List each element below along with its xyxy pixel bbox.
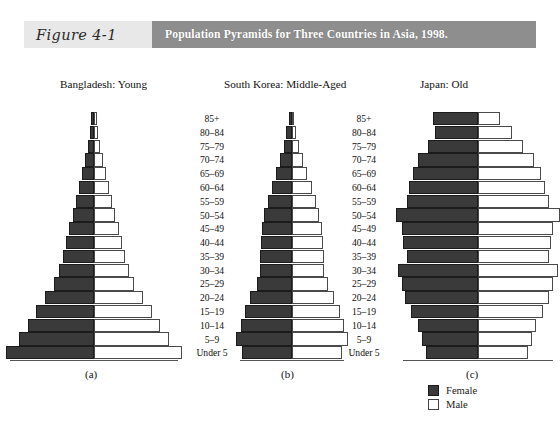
pyramid-row	[396, 250, 560, 263]
female-half	[396, 140, 478, 153]
pyramid-row	[6, 250, 182, 263]
male-half	[94, 236, 182, 249]
male-bar	[292, 208, 319, 221]
pyramid-row	[6, 181, 182, 194]
female-bar	[245, 305, 292, 318]
female-bar	[262, 222, 292, 235]
female-half	[396, 305, 478, 318]
sub-caption-b: (b)	[281, 368, 294, 380]
age-label: 60–64	[183, 183, 241, 193]
female-half	[6, 153, 94, 166]
male-bar	[94, 250, 125, 263]
male-bar	[94, 346, 182, 359]
male-half	[478, 195, 560, 208]
male-half	[478, 264, 560, 277]
pyramid-row	[396, 264, 560, 277]
female-bar	[268, 195, 292, 208]
pyramid-row	[6, 140, 182, 153]
female-bar	[85, 153, 94, 166]
female-bar	[236, 332, 292, 345]
female-bar	[411, 305, 478, 318]
female-half	[236, 181, 292, 194]
male-bar	[292, 112, 294, 125]
female-bar	[250, 291, 292, 304]
female-bar	[79, 181, 94, 194]
female-bar	[45, 291, 94, 304]
female-swatch-icon	[428, 385, 439, 396]
chart-legend: Female Male	[428, 385, 477, 413]
female-half	[396, 181, 478, 194]
pyramid-row	[6, 153, 182, 166]
pyramid-row	[236, 208, 348, 221]
female-half	[236, 208, 292, 221]
female-bar	[402, 222, 478, 235]
male-bar	[292, 140, 299, 153]
male-bar	[292, 305, 340, 318]
female-half	[6, 332, 94, 345]
male-half	[478, 167, 560, 180]
female-half	[6, 264, 94, 277]
female-half	[396, 264, 478, 277]
pyramid-row	[396, 153, 560, 166]
age-label: 45–49	[335, 224, 393, 234]
female-half	[236, 112, 292, 125]
male-bar	[478, 181, 545, 194]
female-bar	[433, 112, 478, 125]
male-half	[478, 305, 560, 318]
pyramid-row	[236, 305, 348, 318]
male-bar	[292, 126, 296, 139]
female-bar	[36, 305, 94, 318]
age-label: 5–9	[183, 335, 241, 345]
male-half	[478, 181, 560, 194]
male-half	[94, 305, 182, 318]
female-bar	[257, 277, 292, 290]
age-label: 5–9	[335, 335, 393, 345]
pyramid-row	[236, 346, 348, 359]
age-label: 30–34	[335, 266, 393, 276]
age-axis-labels-left: 85+80–8475–7970–7465–6960–6455–5950–5445…	[183, 112, 241, 360]
female-bar	[418, 319, 478, 332]
female-half	[236, 250, 292, 263]
female-bar	[435, 126, 478, 139]
female-bar	[409, 181, 478, 194]
pyramid-row	[396, 167, 560, 180]
female-bar	[272, 181, 292, 194]
female-bar	[59, 264, 94, 277]
pyramid-row	[396, 305, 560, 318]
male-bar	[478, 112, 500, 125]
age-label: 80–84	[183, 128, 241, 138]
pyramid-row	[236, 222, 348, 235]
male-bar	[478, 277, 553, 290]
pyramid-baseline	[240, 360, 344, 361]
pyramid-row	[6, 208, 182, 221]
age-label: 70–74	[183, 155, 241, 165]
male-bar	[292, 167, 307, 180]
pyramid-row	[236, 126, 348, 139]
male-bar	[94, 112, 97, 125]
pyramid-row	[6, 277, 182, 290]
figure-header: Figure 4-1 Population Pyramids for Three…	[24, 21, 536, 48]
sub-caption-c: (c)	[466, 368, 478, 380]
panel-caption-bangladesh: Bangladesh: Young	[60, 78, 147, 90]
female-half	[396, 332, 478, 345]
pyramid-row	[236, 140, 348, 153]
legend-label-female: Female	[446, 385, 477, 396]
age-label: 40–44	[183, 238, 241, 248]
female-half	[236, 153, 292, 166]
female-half	[236, 319, 292, 332]
pyramid-row	[236, 153, 348, 166]
male-bar	[94, 277, 134, 290]
male-bar	[94, 153, 103, 166]
age-label: 20–24	[335, 293, 393, 303]
female-bar	[407, 195, 478, 208]
pyramid-chart-bangladesh	[6, 112, 182, 360]
female-bar	[403, 236, 478, 249]
female-bar	[396, 208, 478, 221]
female-half	[6, 305, 94, 318]
female-half	[236, 332, 292, 345]
female-half	[236, 305, 292, 318]
male-half	[478, 277, 560, 290]
female-bar	[398, 264, 478, 277]
female-bar	[241, 319, 292, 332]
female-half	[6, 222, 94, 235]
